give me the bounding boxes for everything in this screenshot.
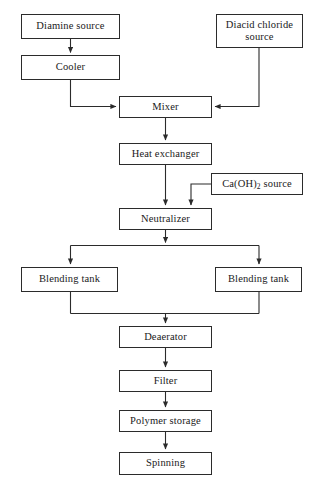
node-deaerator[interactable]: Deaerator (119, 326, 212, 348)
node-heat-exchanger-label: Heat exchanger (129, 148, 203, 160)
node-neutralizer-label: Neutralizer (138, 213, 193, 225)
node-blending-tank-right-label: Blending tank (225, 273, 292, 285)
node-polymer-storage[interactable]: Polymer storage (119, 410, 212, 432)
edge-diacid-to-mixer (215, 48, 259, 107)
node-spinning-label: Spinning (143, 457, 188, 469)
node-blending-tank-left[interactable]: Blending tank (21, 267, 118, 292)
node-caoh2-source-label: Ca(OH)2 source (219, 178, 295, 190)
edge-cooler-to-mixer (71, 80, 117, 107)
node-mixer-label: Mixer (149, 101, 181, 113)
node-cooler-label: Cooler (53, 61, 88, 73)
node-mixer[interactable]: Mixer (119, 96, 212, 118)
edge-caoh2-to-neutralizer (191, 184, 211, 205)
node-diamine-source[interactable]: Diamine source (21, 14, 120, 39)
node-polymer-storage-label: Polymer storage (127, 415, 204, 427)
process-flow-diagram: Diamine source Cooler Diacid chloride so… (0, 0, 321, 492)
node-cooler[interactable]: Cooler (21, 55, 120, 80)
node-neutralizer[interactable]: Neutralizer (119, 208, 212, 230)
node-blending-tank-left-label: Blending tank (36, 273, 103, 285)
node-caoh2-source[interactable]: Ca(OH)2 source (211, 173, 303, 195)
node-filter-label: Filter (151, 375, 181, 387)
node-diamine-source-label: Diamine source (33, 20, 107, 32)
node-spinning[interactable]: Spinning (119, 452, 212, 475)
node-diacid-chloride-source-label: Diacid chloride source (223, 19, 296, 43)
node-blending-tank-right[interactable]: Blending tank (215, 267, 302, 292)
node-deaerator-label: Deaerator (141, 331, 190, 343)
node-heat-exchanger[interactable]: Heat exchanger (119, 143, 212, 165)
node-diacid-chloride-source[interactable]: Diacid chloride source (216, 14, 303, 48)
node-filter[interactable]: Filter (119, 370, 212, 392)
